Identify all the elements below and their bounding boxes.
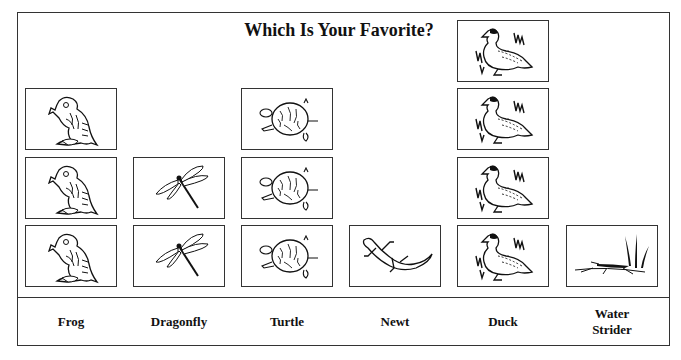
- pictograph-mark: [566, 225, 658, 287]
- category-label-text: Frog: [58, 314, 84, 330]
- category-label: Duck: [449, 298, 557, 346]
- frog-icon: [26, 158, 116, 218]
- chart-title: Which Is Your Favorite?: [230, 20, 448, 41]
- turtle-icon: [242, 226, 332, 286]
- turtle-icon: [242, 89, 332, 149]
- category-label-text: Turtle: [270, 314, 304, 330]
- pictograph-mark: [457, 88, 549, 150]
- category-label-text: Water Strider: [592, 306, 632, 338]
- dragonfly-icon: [134, 226, 224, 286]
- frog-icon: [26, 89, 116, 149]
- duck-icon: [458, 89, 548, 149]
- pictograph-mark: [241, 225, 333, 287]
- water-strider-icon: [567, 226, 657, 286]
- duck-icon: [458, 21, 548, 81]
- pictograph-mark: [241, 157, 333, 219]
- pictograph-mark: [25, 157, 117, 219]
- category-label: Water Strider: [558, 298, 666, 346]
- pictograph-mark: [457, 157, 549, 219]
- category-label: Frog: [17, 298, 125, 346]
- pictograph-mark: [25, 88, 117, 150]
- frog-icon: [26, 226, 116, 286]
- category-label-text: Duck: [488, 314, 518, 330]
- category-label-text: Dragonfly: [151, 314, 207, 330]
- pictograph-mark: [133, 225, 225, 287]
- pictograph-mark: [241, 88, 333, 150]
- pictograph-mark: [25, 225, 117, 287]
- category-label: Dragonfly: [125, 298, 233, 346]
- duck-icon: [458, 158, 548, 218]
- pictograph-mark: [133, 157, 225, 219]
- turtle-icon: [242, 158, 332, 218]
- dragonfly-icon: [134, 158, 224, 218]
- duck-icon: [458, 226, 548, 286]
- category-label-text: Newt: [381, 314, 410, 330]
- newt-icon: [350, 226, 440, 286]
- pictograph-mark: [349, 225, 441, 287]
- category-label: Newt: [341, 298, 449, 346]
- pictograph-mark: [457, 225, 549, 287]
- category-label: Turtle: [233, 298, 341, 346]
- pictograph-mark: [457, 20, 549, 82]
